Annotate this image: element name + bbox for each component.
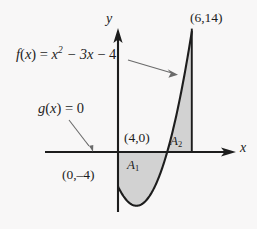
region-a2-index: 2: [178, 139, 182, 149]
y-axis-label: y: [106, 12, 112, 26]
point-label-6-14: (6,14): [190, 11, 223, 25]
region-a1-index: 1: [135, 163, 139, 173]
region-label-a2: A2: [170, 134, 182, 147]
region-a2-name: A: [170, 133, 178, 148]
function-f-term2: − 3x: [63, 46, 94, 62]
point-label-0-neg4: (0,–4): [62, 168, 95, 182]
g-label-arrow-line: [69, 120, 89, 146]
function-f-label: f(x) = x2 − 3x − 4: [16, 47, 116, 62]
function-f-equals: =: [36, 46, 51, 62]
region-a1-name: A: [127, 157, 135, 172]
function-g-equals: = 0: [61, 100, 84, 116]
f-label-arrow-line: [128, 60, 172, 73]
x-axis-label: x: [240, 141, 246, 155]
f-label-arrowhead: [168, 69, 178, 78]
function-g-label: g(x) = 0: [38, 101, 84, 116]
region-label-a1: A1: [127, 158, 139, 171]
figure-container: y x f(x) = x2 − 3x − 4 g(x) = 0 (6,14) (…: [0, 0, 257, 229]
point-label-4-0: (4,0): [124, 131, 150, 145]
function-f-term3: − 4: [94, 46, 117, 62]
